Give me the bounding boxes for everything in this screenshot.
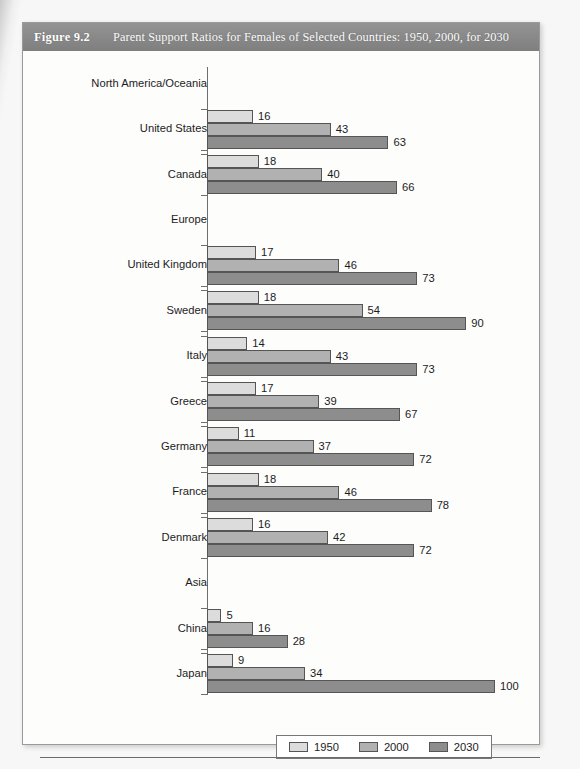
category-label: Japan [27, 667, 207, 679]
bar-1950 [207, 246, 256, 259]
bar-value-label: 43 [336, 122, 348, 136]
bar-value-label: 67 [405, 407, 417, 421]
bar-value-label: 63 [393, 135, 405, 149]
bar-value-label: 72 [419, 543, 431, 557]
bar-2030 [207, 408, 400, 421]
category-label: Greece [27, 395, 207, 407]
axis-tick [201, 245, 207, 246]
bar-value-label: 100 [500, 679, 519, 693]
bar-1950 [207, 337, 247, 350]
bar-value-label: 66 [402, 180, 414, 194]
bar-2030 [207, 680, 495, 693]
bar-value-label: 28 [293, 634, 305, 648]
legend-label: 2030 [454, 741, 479, 753]
bar-2000 [207, 350, 331, 363]
axis-tick [201, 649, 207, 650]
page-background: Figure 9.2 Parent Support Ratios for Fem… [0, 0, 580, 769]
bar-value-label: 17 [261, 245, 273, 259]
bar-2000 [207, 259, 339, 272]
bar-2030 [207, 136, 388, 149]
category-label: Canada [27, 168, 207, 180]
axis-tick [201, 377, 207, 378]
bar-value-label: 42 [333, 530, 345, 544]
bar-2000 [207, 304, 363, 317]
axis-tick [201, 558, 207, 559]
axis-tick [201, 336, 207, 337]
page-footer-rule [40, 757, 540, 758]
bar-1950 [207, 427, 239, 440]
bar-value-label: 14 [252, 336, 264, 350]
category-label: Germany [27, 440, 207, 452]
bar-2000 [207, 667, 305, 680]
bar-2030 [207, 181, 397, 194]
bar-value-label: 18 [264, 154, 276, 168]
bar-2000 [207, 168, 322, 181]
legend-label: 1950 [314, 741, 339, 753]
figure-container: Figure 9.2 Parent Support Ratios for Fem… [22, 22, 540, 745]
axis-tick [201, 381, 207, 382]
bar-value-label: 46 [344, 258, 356, 272]
bar-value-label: 18 [264, 472, 276, 486]
category-label: China [27, 622, 207, 634]
figure-header-bar: Figure 9.2 Parent Support Ratios for Fem… [23, 23, 539, 51]
figure-number: Figure 9.2 [34, 30, 90, 45]
axis-tick [201, 694, 207, 695]
bar-value-label: 43 [336, 349, 348, 363]
bar-1950 [207, 110, 253, 123]
bar-value-label: 5 [226, 608, 232, 622]
legend-item: 2030 [429, 741, 479, 753]
axis-tick [201, 286, 207, 287]
axis-tick [201, 467, 207, 468]
bar-value-label: 90 [471, 316, 483, 330]
bar-2030 [207, 499, 432, 512]
bar-value-label: 78 [437, 498, 449, 512]
axis-tick [201, 154, 207, 155]
bar-1950 [207, 382, 256, 395]
category-label: Europe [27, 213, 207, 225]
bar-2030 [207, 272, 417, 285]
bar-2030 [207, 363, 417, 376]
bar-2030 [207, 635, 288, 648]
axis-tick [201, 653, 207, 654]
category-label: Sweden [27, 304, 207, 316]
bar-value-label: 37 [319, 439, 331, 453]
bar-2000 [207, 123, 331, 136]
bar-1950 [207, 155, 259, 168]
axis-tick [201, 426, 207, 427]
category-label: France [27, 485, 207, 497]
legend-item: 2000 [359, 741, 409, 753]
bar-value-label: 17 [261, 381, 273, 395]
bar-value-label: 16 [258, 109, 270, 123]
bar-2000 [207, 622, 253, 635]
bar-value-label: 16 [258, 621, 270, 635]
bar-value-label: 40 [327, 167, 339, 181]
bar-value-label: 9 [238, 653, 244, 667]
plot-area: North America/OceaniaUnited States164363… [23, 51, 539, 744]
category-label: Italy [27, 349, 207, 361]
legend-item: 1950 [289, 741, 339, 753]
bar-2000 [207, 395, 319, 408]
bar-2030 [207, 544, 414, 557]
bar-2000 [207, 486, 339, 499]
bar-2000 [207, 531, 328, 544]
bar-value-label: 54 [368, 303, 380, 317]
axis-tick [201, 195, 207, 196]
bar-value-label: 34 [310, 666, 322, 680]
bar-1950 [207, 654, 233, 667]
bar-2030 [207, 453, 414, 466]
legend-swatch-1950 [289, 742, 308, 752]
category-label: United Kingdom [27, 258, 207, 270]
bar-1950 [207, 473, 259, 486]
bar-value-label: 73 [422, 362, 434, 376]
axis-tick [201, 608, 207, 609]
bar-value-label: 11 [244, 426, 256, 440]
chart-legend: 195020002030 [276, 735, 492, 759]
legend-label: 2000 [384, 741, 409, 753]
figure-title: Parent Support Ratios for Females of Sel… [113, 30, 509, 45]
bar-2030 [207, 317, 466, 330]
bar-value-label: 39 [324, 394, 336, 408]
bar-2000 [207, 440, 314, 453]
bar-1950 [207, 291, 259, 304]
legend-swatch-2000 [359, 742, 378, 752]
bar-1950 [207, 609, 221, 622]
